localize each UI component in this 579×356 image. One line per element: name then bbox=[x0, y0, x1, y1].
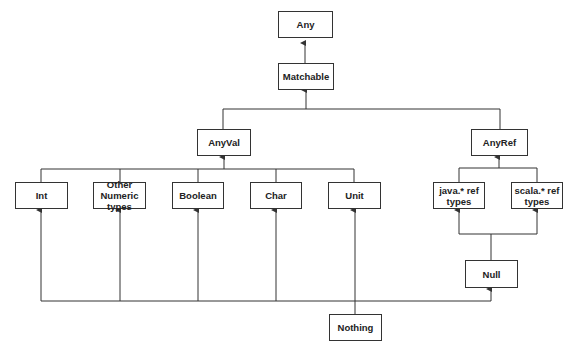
node-other-numeric-types[interactable]: Other Numeric types bbox=[93, 182, 146, 209]
node-boolean[interactable]: Boolean bbox=[172, 182, 224, 209]
node-anyref[interactable]: AnyRef bbox=[471, 129, 528, 156]
node-anyval[interactable]: AnyVal bbox=[197, 129, 251, 156]
node-unit[interactable]: Unit bbox=[328, 182, 381, 209]
edge-anyval-children bbox=[41, 169, 354, 182]
edges-layer bbox=[0, 0, 579, 356]
node-any[interactable]: Any bbox=[278, 11, 333, 38]
node-int[interactable]: Int bbox=[15, 182, 68, 209]
node-null[interactable]: Null bbox=[465, 260, 518, 288]
node-java-ref-types[interactable]: java.* ref types bbox=[433, 182, 485, 209]
node-nothing[interactable]: Nothing bbox=[329, 314, 382, 341]
edge-anyval-anyref-matchable bbox=[223, 109, 500, 129]
edge-null-refs bbox=[459, 234, 537, 260]
node-matchable[interactable]: Matchable bbox=[278, 63, 334, 90]
node-scala-ref-types[interactable]: scala.* ref types bbox=[511, 182, 563, 209]
node-char[interactable]: Char bbox=[250, 182, 302, 209]
edge-anyref-children bbox=[459, 168, 537, 182]
edge-nothing-bus bbox=[41, 301, 491, 314]
